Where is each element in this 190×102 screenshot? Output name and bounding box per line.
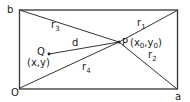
segment-r3 xyxy=(20,10,120,42)
corner-label-a: a xyxy=(175,91,181,102)
segment-label-d: d xyxy=(72,37,78,48)
point-label-q: Q xyxy=(37,46,45,57)
point-p-marker xyxy=(117,40,120,43)
point-label-p: P(x0,y0) xyxy=(122,37,162,50)
point-q-marker xyxy=(48,53,51,56)
segment-label-r2: r2 xyxy=(148,49,157,63)
rectangle-distance-diagram: b O a r1 r2 r3 r4 d P(x0,y0) Q (x,y) xyxy=(0,0,190,102)
segment-label-r1: r1 xyxy=(137,17,146,31)
segment-label-r4: r4 xyxy=(82,61,91,75)
point-coords-q: (x,y) xyxy=(27,57,50,68)
segment-d xyxy=(49,42,119,54)
corner-label-b: b xyxy=(7,4,13,15)
corner-label-o: O xyxy=(11,87,19,98)
